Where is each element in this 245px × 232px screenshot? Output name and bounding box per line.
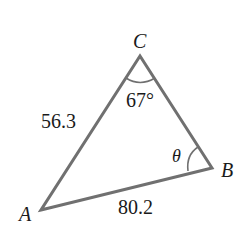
- angle-arc-c: [126, 78, 155, 83]
- angle-label-b: θ: [172, 146, 181, 166]
- vertex-label-a: A: [17, 203, 32, 225]
- side-label-ac: 56.3: [41, 110, 76, 132]
- vertex-label-c: C: [133, 30, 147, 52]
- side-label-ab: 80.2: [118, 196, 153, 218]
- angle-arc-b: [188, 147, 198, 171]
- triangle-diagram: C A B 56.3 80.2 67° θ: [0, 0, 245, 232]
- vertex-label-b: B: [221, 159, 233, 181]
- angle-label-c: 67°: [126, 89, 154, 111]
